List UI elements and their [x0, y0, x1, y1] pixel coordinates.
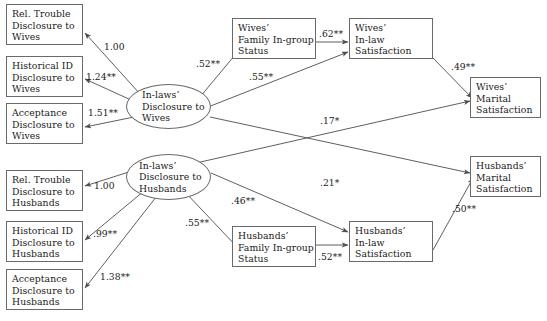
node-line: Disclosure to — [12, 285, 78, 297]
node-acceptance-wives: Acceptance Disclosure to Wives — [6, 103, 83, 144]
node-line: Wives — [142, 112, 210, 124]
node-line: Husbands — [12, 197, 78, 209]
node-line: Wives — [12, 130, 78, 142]
node-line: Marital — [476, 172, 536, 184]
node-line: Rel. Trouble — [12, 174, 78, 186]
path-label-wives-reltrouble: 1.00 — [104, 42, 125, 52]
path-label-husb-histid: .99** — [93, 229, 117, 239]
node-line: In-law — [355, 237, 428, 249]
node-line: Disclosure to — [142, 101, 210, 113]
node-wives-marital-satisfaction: Wives’ Marital Satisfaction — [470, 77, 541, 118]
node-line: Satisfaction — [476, 183, 536, 195]
node-line: Husbands’ — [355, 225, 428, 237]
node-line: Status — [238, 253, 311, 265]
node-husbands-marital-satisfaction: Husbands’ Marital Satisfaction — [470, 156, 541, 197]
node-line: Husbands — [12, 248, 78, 260]
arrow-hinlaw-marital — [433, 178, 473, 250]
arrow-wives-acceptance — [85, 117, 134, 127]
node-line: Acceptance — [12, 273, 78, 285]
node-line: Family In-group — [238, 34, 311, 46]
node-line: Satisfaction — [355, 45, 428, 57]
path-label-wingroup-inlawsat: .62** — [319, 29, 343, 39]
node-line: Satisfaction — [355, 248, 428, 260]
node-line: In-law — [355, 34, 428, 46]
node-acceptance-husbands: Acceptance Disclosure to Husbands — [6, 269, 83, 310]
node-line: Wives’ — [355, 22, 428, 34]
node-line: Disclosure to — [12, 72, 78, 84]
path-label-wives-ingroup: .52** — [196, 59, 220, 69]
path-label-husb-inlawsat: .46** — [231, 196, 255, 206]
arrow-wives-histid — [85, 79, 131, 100]
node-line: Acceptance — [12, 107, 78, 119]
path-label-hingroup-inlawsat: .52** — [318, 252, 342, 262]
node-line: Husbands — [12, 296, 78, 308]
path-label-husb-acceptance: 1.38** — [100, 272, 130, 282]
arrow-wives-inlawsat — [208, 52, 348, 107]
path-label-wives-acceptance: 1.51** — [88, 108, 118, 118]
node-line: Wives’ — [238, 22, 311, 34]
node-line: Wives’ — [476, 81, 536, 93]
node-inlaws-disclosure-wives: In-laws’ Disclosure to Wives — [126, 84, 211, 129]
node-line: Husbands’ — [476, 160, 536, 172]
node-line: Marital — [476, 93, 536, 105]
node-line: Status — [238, 45, 311, 57]
path-label-husbdisc-wmarital: .17* — [320, 116, 339, 126]
path-label-wives-inlawsat: .55** — [249, 72, 273, 82]
node-rel-trouble-wives: Rel. Trouble Disclosure to Wives — [6, 4, 83, 45]
node-line: Historical ID — [12, 225, 78, 237]
node-line: Rel. Trouble — [12, 8, 78, 20]
node-line: Husbands’ — [238, 230, 311, 242]
arrow-husbdisc-wmarital — [196, 101, 470, 163]
node-line: Disclosure to — [12, 20, 78, 32]
node-husbands-inlaw-satisfaction: Husbands’ In-law Satisfaction — [349, 221, 433, 262]
node-line: Disclosure to — [12, 186, 78, 198]
node-line: Historical ID — [12, 60, 78, 72]
path-label-winlaw-marital: .49** — [451, 62, 475, 72]
node-line: Disclosure to — [12, 119, 78, 131]
node-line: Husbands — [139, 183, 210, 195]
node-line: Wives — [12, 31, 78, 43]
path-label-hinlaw-marital: .50** — [452, 204, 476, 214]
node-line: Wives — [12, 83, 78, 95]
node-wives-family-ingroup: Wives’ Family In-group Status — [232, 18, 316, 59]
arrow-wivesdisc-hmarital — [210, 117, 470, 173]
node-line: In-laws’ — [142, 89, 210, 101]
node-inlaws-disclosure-husbands: In-laws’ Disclosure to Husbands — [126, 154, 211, 200]
node-line: Disclosure to — [139, 171, 210, 183]
node-wives-inlaw-satisfaction: Wives’ In-law Satisfaction — [349, 18, 433, 59]
path-label-husb-reltrouble: 1.00 — [94, 181, 115, 191]
node-line: Satisfaction — [476, 104, 536, 116]
path-label-wivesdisc-hmarital: .21* — [320, 178, 339, 188]
node-line: In-laws’ — [139, 160, 210, 172]
path-label-wives-histid: 1.24** — [86, 72, 116, 82]
node-line: Family In-group — [238, 242, 311, 254]
path-label-husb-ingroup: .55** — [185, 218, 209, 228]
node-husbands-family-ingroup: Husbands’ Family In-group Status — [232, 226, 316, 267]
node-historical-id-wives: Historical ID Disclosure to Wives — [6, 56, 83, 97]
node-rel-trouble-husbands: Rel. Trouble Disclosure to Husbands — [6, 170, 83, 211]
node-line: Disclosure to — [12, 237, 78, 249]
sem-path-diagram: Rel. Trouble Disclosure to Wives Histori… — [0, 0, 547, 321]
node-historical-id-husbands: Historical ID Disclosure to Husbands — [6, 221, 83, 262]
